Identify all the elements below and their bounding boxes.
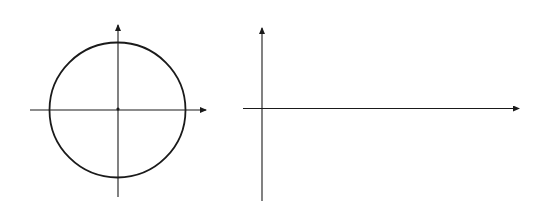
diagram-canvas: [0, 0, 548, 216]
wave-graph-group: [243, 28, 519, 201]
unit-circle-group: [30, 25, 206, 197]
origin-dot: [116, 107, 119, 110]
unit-circle-wave-diagram: [0, 0, 548, 216]
